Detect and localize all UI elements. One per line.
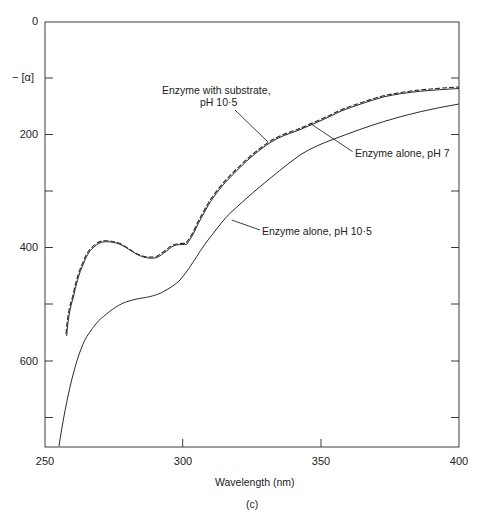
y-axis-ticks-right [451,78,459,418]
curve-enzyme-with-substrate [66,87,459,334]
annotation-substrate-line2: pH 10·5 [200,96,237,108]
annotation-substrate-line1: Enzyme with substrate, [162,84,271,96]
y-tick-label-600: 600 [4,355,38,367]
x-tick-label-400: 400 [439,455,479,467]
chart-canvas [0,0,483,522]
y-tick-label-200: 200 [4,128,38,140]
x-tick-label-350: 350 [301,455,341,467]
leader-line-substrate [235,110,268,142]
x-axis-ticks [183,439,321,447]
y-tick-label-0: 0 [4,15,38,27]
figure-caption: (c) [246,498,258,510]
x-tick-label-300: 300 [163,455,203,467]
leader-line-alone-ph7 [310,123,353,151]
curve-enzyme-alone-ph7 [67,89,459,337]
y-axis-label: − [α] [12,71,34,83]
annotation-alone-ph7: Enzyme alone, pH 7 [355,147,450,159]
x-axis-label: Wavelength (nm) [215,476,295,488]
leader-line-alone-ph10-5 [232,220,260,230]
y-axis-ticks-left [45,78,53,418]
annotation-alone-ph10-5: Enzyme alone, pH 10·5 [262,225,372,237]
y-tick-label-400: 400 [4,241,38,253]
x-tick-label-250: 250 [25,455,65,467]
